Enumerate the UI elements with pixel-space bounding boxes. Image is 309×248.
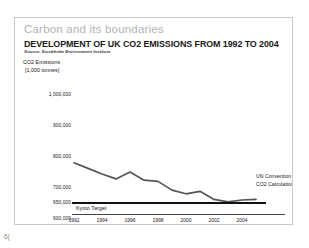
x-tick-2004: 2004 bbox=[229, 217, 255, 223]
x-tick-2000: 2000 bbox=[173, 217, 199, 223]
page-number: 6( bbox=[4, 233, 10, 240]
x-axis-line bbox=[72, 214, 285, 215]
x-tick-1992: 1992 bbox=[61, 217, 87, 223]
legend: UN Convention CO2 Calculation bbox=[256, 173, 293, 188]
x-tick-1996: 1996 bbox=[117, 217, 143, 223]
plot-area: 1,000,000 900,000 800,000 700,000 650,00… bbox=[15, 18, 292, 224]
kyoto-target-line bbox=[72, 202, 266, 204]
legend-entry-line1: UN Convention bbox=[256, 173, 293, 181]
series-line-un-convention-co2-calculation bbox=[15, 18, 293, 225]
slide-frame: Carbon and its boundaries DEVELOPMENT OF… bbox=[14, 17, 293, 225]
x-tick-1994: 1994 bbox=[89, 217, 115, 223]
legend-entry-line2: CO2 Calculation bbox=[256, 181, 293, 189]
kyoto-target-label: Kyoto Target bbox=[76, 205, 106, 211]
x-tick-2002: 2002 bbox=[201, 217, 227, 223]
x-tick-1998: 1998 bbox=[145, 217, 171, 223]
